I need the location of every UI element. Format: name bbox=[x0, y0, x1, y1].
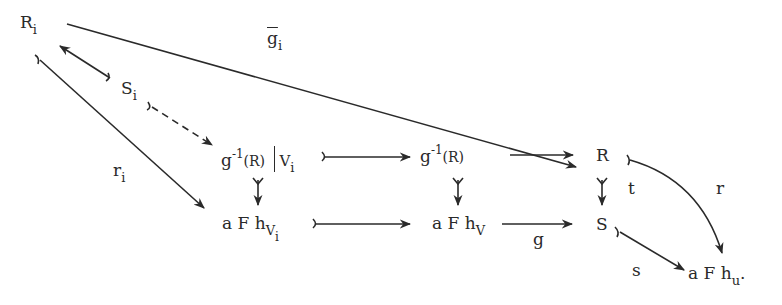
mono-tail-icon bbox=[615, 227, 618, 237]
node-restrict-to: V bbox=[279, 152, 290, 170]
mono-tail-icon bbox=[627, 155, 629, 165]
label-base: r bbox=[113, 160, 121, 180]
node-subsub: i bbox=[275, 230, 279, 244]
node-Si: Si bbox=[121, 80, 137, 97]
commutative-diagram: Ri Si g-1(R) Vi g-1(R) R a F hVi a F hV … bbox=[0, 0, 782, 305]
label-g-bar-i: gi bbox=[267, 30, 282, 47]
mono-tail-icon bbox=[35, 55, 39, 64]
node-sub: V bbox=[266, 223, 275, 238]
node-restrict-sub: i bbox=[290, 160, 294, 175]
label-r-i: ri bbox=[113, 162, 125, 179]
node-rest: (R) bbox=[244, 153, 265, 169]
restriction-bar bbox=[274, 146, 275, 172]
node-Ri-base: R bbox=[20, 12, 33, 32]
label-base: g bbox=[267, 28, 278, 48]
node-aFh-V: a F hV bbox=[432, 215, 485, 232]
node-g-inverse-R: g-1(R) bbox=[420, 148, 464, 165]
diagram-arrows bbox=[0, 0, 782, 305]
node-base: g bbox=[420, 146, 431, 166]
arrow-Si-to-Ri bbox=[60, 46, 110, 78]
mono-tail-icon bbox=[322, 152, 325, 161]
node-sup: -1 bbox=[431, 143, 443, 157]
node-rest: (R) bbox=[443, 149, 464, 165]
node-R: R bbox=[596, 147, 609, 164]
label-t: t bbox=[628, 180, 635, 197]
node-base: a F h bbox=[222, 213, 266, 233]
arrow-s bbox=[620, 232, 684, 270]
label-r: r bbox=[716, 180, 724, 197]
label-sub: i bbox=[121, 170, 125, 185]
node-Ri-sub: i bbox=[33, 22, 37, 37]
node-aFh-Vi: a F hVi bbox=[222, 215, 279, 232]
node-S-base: S bbox=[596, 214, 608, 234]
mono-tail-icon bbox=[313, 219, 316, 228]
node-trail: . bbox=[740, 263, 745, 283]
node-base: g bbox=[221, 150, 232, 170]
node-Si-sub: i bbox=[133, 88, 137, 103]
node-S: S bbox=[596, 216, 608, 233]
node-Ri: Ri bbox=[20, 14, 37, 31]
node-sup: -1 bbox=[232, 147, 244, 161]
label-sub: i bbox=[278, 38, 282, 53]
mono-tail-icon bbox=[147, 102, 150, 110]
node-R-base: R bbox=[596, 145, 609, 165]
arrow-gbar-i bbox=[67, 24, 576, 167]
label-s: s bbox=[632, 262, 641, 279]
node-base: a F h bbox=[688, 263, 732, 283]
node-sub: V bbox=[476, 223, 485, 238]
node-sub: u bbox=[732, 273, 740, 288]
node-g-inverse-R-restricted: g-1(R) Vi bbox=[221, 148, 294, 174]
arrow-r bbox=[630, 160, 722, 253]
node-base: a F h bbox=[432, 213, 476, 233]
node-aFh-u: a F hu. bbox=[688, 265, 745, 282]
label-g: g bbox=[533, 231, 544, 248]
node-Si-base: S bbox=[121, 78, 133, 98]
arrow-Si-to-restricted bbox=[152, 107, 212, 145]
